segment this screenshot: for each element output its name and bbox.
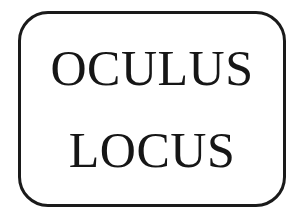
logo-text-line-2: LOCUS [69,125,235,175]
logo-text-line-1: OCULUS [50,43,253,93]
logo-card: OCULUS LOCUS [0,0,298,215]
wordmark: OCULUS LOCUS [18,11,286,207]
